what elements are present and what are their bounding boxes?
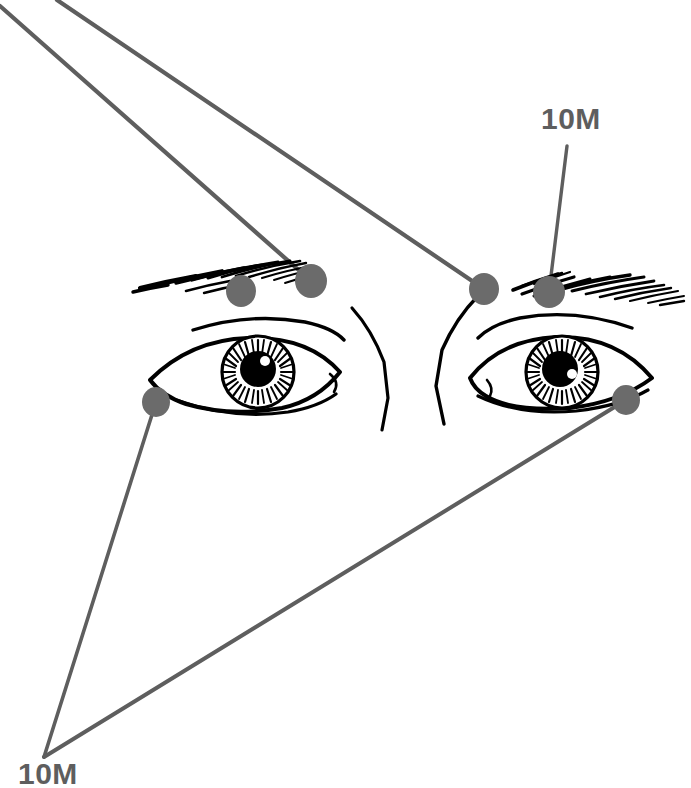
marker-left-canthus[interactable] <box>142 387 170 417</box>
left-eye <box>150 318 344 414</box>
right-eye-crease <box>478 315 632 338</box>
marker-glabella-right[interactable] <box>469 273 499 305</box>
marker-left-brow-inner[interactable] <box>226 275 256 307</box>
left-eye-pupil <box>240 351 276 387</box>
left-eye-highlight <box>260 356 270 366</box>
leader-to-left-brow-outer-line <box>0 6 311 281</box>
right-eye-pupil <box>542 351 578 387</box>
marker-right-brow-inner[interactable] <box>533 276 565 308</box>
marker-right-canthus[interactable] <box>612 385 640 415</box>
nose-bridge <box>352 296 478 430</box>
leader-to-right-canthus-line <box>44 400 626 757</box>
leader-to-right-brow-line <box>549 146 567 292</box>
leader-to-left-canthus-line <box>44 402 156 757</box>
marker-left-brow-outer[interactable] <box>295 264 327 298</box>
dose-label-right-brow: 10M <box>541 102 601 136</box>
dose-label-bottom: 10M <box>18 757 78 788</box>
right-eye-highlight <box>567 369 577 379</box>
